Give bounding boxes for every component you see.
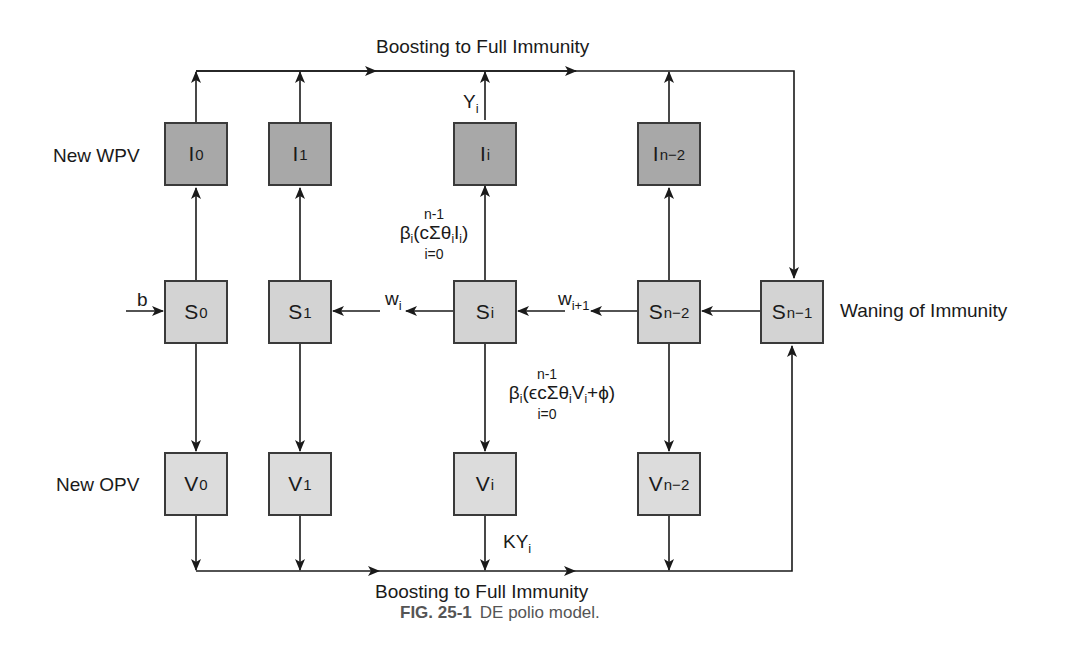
compartment-vi: Vi (453, 452, 517, 516)
yi-label: Yi (463, 92, 479, 115)
wi1-label: wi+1 (558, 289, 589, 312)
compartment-s0: S0 (164, 280, 228, 344)
waning-label: Waning of Immunity (840, 301, 1007, 320)
compartment-in2: In−2 (637, 122, 701, 186)
vaccination-rate-formula: n-1 βi(ϵcΣθiVi+ϕ) i=0 (500, 367, 624, 421)
infection-rate-formula: n-1 βi(cΣθiIi) i=0 (392, 207, 476, 261)
figure-number: FIG. 25-1 (400, 603, 472, 622)
compartment-i0: I0 (164, 122, 228, 186)
birth-label: b (137, 290, 148, 309)
compartment-si: Si (453, 280, 517, 344)
wi-label: wi (385, 289, 402, 312)
compartment-sn2: Sn−2 (637, 280, 701, 344)
flow-arrows (0, 0, 1072, 653)
compartment-ii: Ii (453, 122, 517, 186)
figure-caption: FIG. 25-1DE polio model. (400, 604, 600, 621)
top-boost-label: Boosting to Full Immunity (376, 37, 589, 56)
compartment-sn1: Sn−1 (760, 280, 824, 344)
compartment-v1: V1 (268, 452, 332, 516)
compartment-vn2: Vn−2 (637, 452, 701, 516)
bottom-boost-label: Boosting to Full Immunity (375, 582, 588, 601)
figure-title: DE polio model. (480, 603, 600, 622)
compartment-i1: I1 (268, 122, 332, 186)
new-wpv-label: New WPV (53, 146, 140, 165)
compartment-v0: V0 (164, 452, 228, 516)
kyi-label: KYi (503, 532, 531, 555)
new-opv-label: New OPV (56, 475, 139, 494)
compartment-s1: S1 (268, 280, 332, 344)
